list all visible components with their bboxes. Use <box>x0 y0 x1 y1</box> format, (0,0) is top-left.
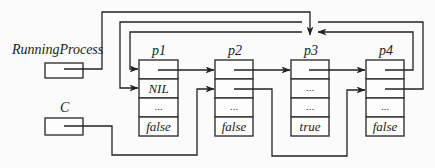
c-label: C <box>60 100 70 115</box>
record-p1: p1 NIL ... false <box>139 43 178 136</box>
field-value: NIL <box>147 81 168 96</box>
field-value: ... <box>154 100 163 112</box>
record-p3: p3 ... ... true <box>291 43 329 136</box>
record-label: p1 <box>151 43 166 58</box>
record-label: p4 <box>378 43 393 58</box>
field-value: false <box>373 119 398 134</box>
running-process-variable: RunningProcess <box>11 42 104 78</box>
c-variable: C <box>45 100 83 135</box>
field-value: false <box>222 119 247 134</box>
running-process-box <box>45 63 83 78</box>
linked-list-diagram: RunningProcess C p1 NIL ... false p2 ...… <box>0 0 435 168</box>
record-label: p2 <box>227 43 242 58</box>
field-value: true <box>300 119 321 134</box>
field-value: false <box>146 119 171 134</box>
record-label: p3 <box>303 43 318 58</box>
field-value: ... <box>230 100 239 112</box>
field-value: ... <box>306 81 315 93</box>
running-process-label: RunningProcess <box>11 42 104 57</box>
field-value: ... <box>306 100 315 112</box>
field-value: ... <box>381 100 390 112</box>
arrow-runningprocess-to-p3 <box>64 12 310 69</box>
